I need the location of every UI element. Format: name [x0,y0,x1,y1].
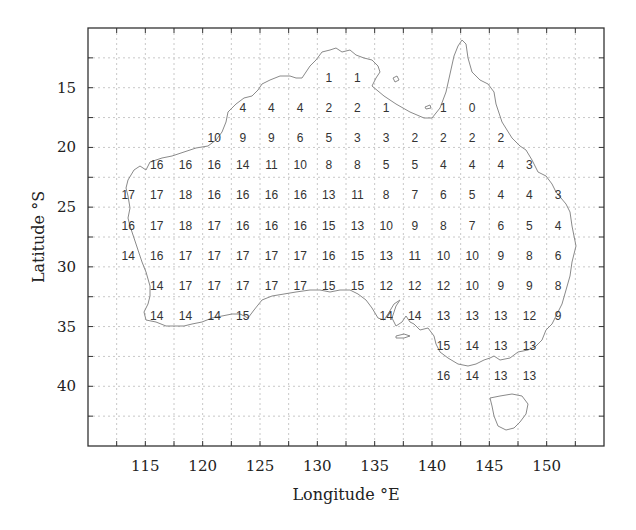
grid-cell-value: 18 [179,188,193,202]
grid-cell-value: 5 [325,131,332,145]
grid-cell-value: 15 [351,249,365,263]
grid-cell-value: 13 [379,249,393,263]
grid-cell-value: 16 [179,158,193,172]
grid-cell-value: 5 [411,158,418,172]
grid-cell-value: 4 [268,101,275,115]
grid-cell-value: 1 [325,71,332,85]
grid-cell-value: 14 [465,339,479,353]
tasmania-coastline [490,394,528,430]
grid-cell-value: 8 [526,249,533,263]
grid-cell-value: 18 [179,219,193,233]
grid-cell-value: 12 [437,279,451,293]
grid-cell-value: 4 [497,188,504,202]
grid-cell-value: 14 [408,309,422,323]
grid-cell-value: 17 [207,249,221,263]
x-tick-label: 125 [246,457,275,475]
grid-cell-value: 9 [239,131,246,145]
grid-cell-value: 16 [236,219,250,233]
grid-cell-value: 9 [526,279,533,293]
y-tick-label: 15 [57,79,76,97]
grid-cell-value: 16 [322,249,336,263]
grid-cell-value: 9 [268,131,275,145]
grid-cell-value: 5 [383,158,390,172]
grid-cell-value: 12 [408,279,422,293]
grid-cell-value: 2 [325,101,332,115]
grid-cell-value: 12 [523,309,537,323]
grid-cell-value: 6 [555,249,562,263]
grid-cell-value: 17 [265,249,279,263]
grid-cell-value: 16 [207,158,221,172]
mainland-coastline [126,40,576,366]
grid-cell-value: 14 [150,279,164,293]
grid-cell-value: 9 [555,309,562,323]
grid-cell-value: 4 [440,158,447,172]
grid-cell-value: 14 [150,309,164,323]
kangaroo-island-coastline [396,334,410,338]
grid-cell-value: 17 [207,279,221,293]
y-axis-title: Latitude °S [29,191,48,283]
grid-cell-value: 12 [379,279,393,293]
grid-cell-value: 15 [236,309,250,323]
grid-cell-value: 17 [236,279,250,293]
grid-cell-value: 4 [469,158,476,172]
grid-cell-value: 6 [497,219,504,233]
y-tick-label: 35 [57,318,76,336]
grid-cell-value: 10 [379,219,393,233]
grid-cell-value: 14 [236,158,250,172]
grid-cell-value: 4 [526,188,533,202]
y-tick-label: 20 [57,138,76,156]
y-tick-label: 30 [57,258,76,276]
grid-cell-value: 15 [322,279,336,293]
grid-cell-value: 17 [207,219,221,233]
grid-cell-value: 0 [469,101,476,115]
coastline [126,40,576,430]
grid-cell-value: 4 [239,101,246,115]
gridlines [88,28,604,446]
grid-cell-value: 17 [150,188,164,202]
grid-cell-value: 10 [465,249,479,263]
grid-cell-value: 17 [293,249,307,263]
grid-cell-value: 17 [179,249,193,263]
x-tick-label: 150 [532,457,561,475]
grid-cell-value: 17 [121,188,135,202]
grid-cell-value: 17 [150,219,164,233]
grid-cell-value: 11 [351,188,364,202]
grid-cell-value: 16 [293,188,307,202]
grid-cell-value: 16 [121,219,135,233]
grid-cell-value: 13 [465,309,479,323]
grid-cell-value: 5 [469,188,476,202]
grid-cell-value: 3 [383,131,390,145]
y-tick-label: 25 [57,198,76,216]
grid-cell-value: 16 [236,188,250,202]
grid-cell-value: 13 [494,339,508,353]
grid-cell-value: 16 [265,219,279,233]
grid-cell-value: 2 [469,131,476,145]
grid-cell-value: 16 [150,249,164,263]
grid-cell-value: 16 [207,188,221,202]
grid-cell-value: 13 [322,188,336,202]
grid-cell-value: 11 [409,249,422,263]
grid-cell-value: 16 [293,219,307,233]
x-tick-label: 140 [418,457,447,475]
grid-cell-value: 11 [265,158,278,172]
australia-grid-chart: 1144422110109965332222161616141110885544… [0,0,636,530]
grid-cell-value: 16 [437,369,451,383]
grid-cell-value: 9 [411,219,418,233]
grid-cell-value: 2 [497,131,504,145]
grid-cell-value: 8 [354,158,361,172]
grid-cell-value: 17 [236,249,250,263]
grid-cell-value: 9 [497,279,504,293]
grid-cell-value: 14 [207,309,221,323]
grid-values: 1144422110109965332222161616141110885544… [121,71,561,382]
grid-cell-value: 13 [351,219,365,233]
x-tick-label: 145 [475,457,504,475]
grid-cell-value: 8 [555,279,562,293]
grid-cell-value: 17 [293,279,307,293]
x-tick-label: 130 [303,457,332,475]
grid-cell-value: 15 [322,219,336,233]
grid-cell-value: 14 [465,369,479,383]
y-tick-label: 40 [57,377,76,395]
grid-cell-value: 10 [293,158,307,172]
grid-cell-value: 16 [150,158,164,172]
grid-cell-value: 2 [411,131,418,145]
